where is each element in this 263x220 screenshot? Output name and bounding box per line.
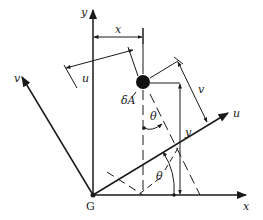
element-label: δA [121, 94, 136, 107]
theta-label-bottom: θ [156, 170, 163, 183]
v-dimension-label: v [198, 83, 205, 96]
rotated-axes-diagram: y x u v G x u v y δA θ θ [0, 0, 263, 220]
y-dimension-label: y [184, 126, 192, 139]
angle-arc-top [142, 124, 162, 130]
y-axis-label: y [80, 6, 88, 19]
y-dimension [150, 83, 180, 194]
u-dimension [66, 50, 133, 68]
angle-arc-bottom [163, 152, 176, 197]
origin-label: G [86, 200, 95, 213]
x-axis-label: x [243, 200, 250, 213]
u-axis-label: u [233, 107, 240, 120]
x-dimension-label: x [115, 23, 122, 36]
theta-label-top: θ [150, 110, 157, 123]
v-axis [22, 77, 93, 195]
u-dimension-label: u [82, 72, 89, 85]
origin-point [91, 193, 96, 198]
area-element-dot [136, 75, 150, 89]
v-axis-label: v [14, 72, 21, 85]
